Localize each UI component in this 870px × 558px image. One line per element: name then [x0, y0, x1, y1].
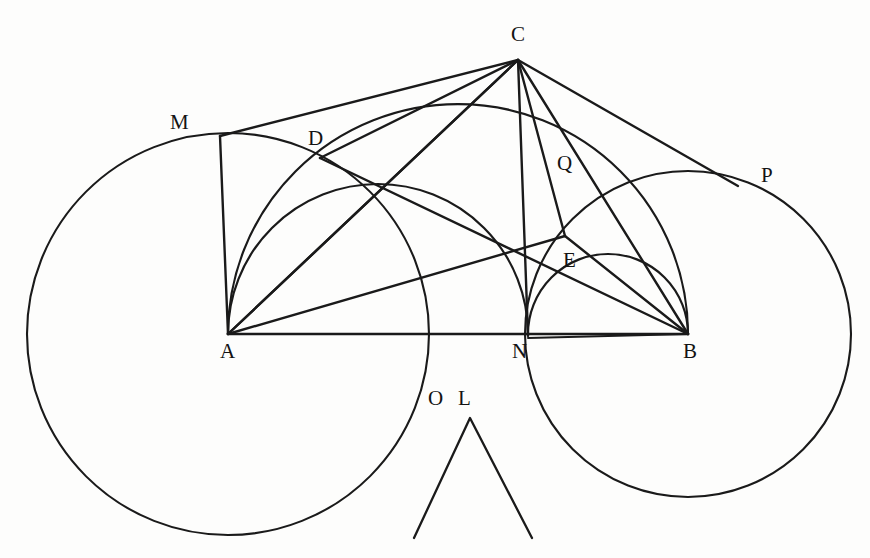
segment-am — [220, 136, 228, 334]
segment-cd — [320, 60, 518, 158]
point-label-e: E — [563, 250, 576, 271]
geometry-figure: M C D Q P E A N B O L — [0, 0, 870, 558]
point-label-o: O — [428, 388, 443, 409]
point-label-q: Q — [557, 153, 572, 174]
point-label-m: M — [170, 112, 189, 133]
point-label-p: P — [761, 165, 773, 186]
point-label-l: L — [458, 388, 471, 409]
point-label-b: B — [683, 341, 697, 362]
geometry-canvas — [0, 0, 870, 558]
point-label-d: D — [308, 128, 323, 149]
segment-cm — [220, 60, 518, 136]
semicircle-on-ab — [228, 104, 688, 334]
point-label-n: N — [512, 341, 527, 362]
point-label-c: C — [511, 24, 525, 45]
angle-mark-ol — [414, 418, 532, 538]
segment-ce — [518, 60, 565, 236]
point-label-a: A — [220, 341, 235, 362]
